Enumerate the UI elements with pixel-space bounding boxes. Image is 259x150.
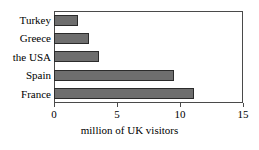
bars-layer [54,11,243,103]
x-axis-title: million of UK visitors [0,124,259,136]
bar-row [54,29,243,47]
bar-row [54,48,243,66]
bar-turkey [54,15,78,26]
x-tick-mark-15 [243,103,244,107]
x-tick-label-10: 10 [175,108,186,120]
bar-the-usa [54,51,99,62]
x-tick-label-15: 15 [238,108,249,120]
category-label-the-usa: the USA [13,48,51,66]
bar-spain [54,70,174,81]
x-tick-mark-10 [180,103,181,107]
category-label-france: France [21,85,51,103]
bar-greece [54,33,89,44]
bar-chart: Turkey Greece the USA Spain France 0 5 1… [0,0,259,150]
x-tick-label-0: 0 [51,108,57,120]
bar-row [54,66,243,84]
category-label-spain: Spain [26,66,51,84]
bar-row [54,11,243,29]
x-axis-ticks: 0 5 10 15 [54,103,243,123]
category-label-turkey: Turkey [20,11,51,29]
category-label-greece: Greece [20,29,51,47]
bar-france [54,88,194,99]
x-tick-mark-5 [117,103,118,107]
x-tick-label-5: 5 [114,108,120,120]
category-axis-labels: Turkey Greece the USA Spain France [0,11,51,103]
x-tick-mark-0 [54,103,55,107]
bar-row [54,85,243,103]
